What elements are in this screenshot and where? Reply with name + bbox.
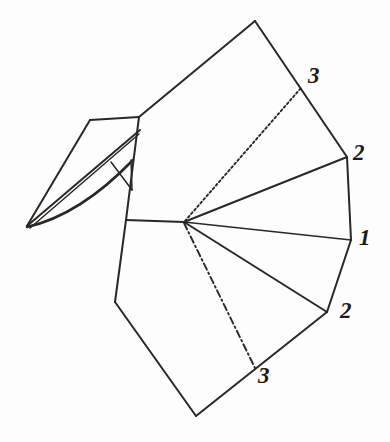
crease-label-2-lower: 2 <box>340 299 352 322</box>
crease-label-3-upper: 3 <box>308 64 320 87</box>
fold-beak-brace-lower <box>131 160 132 190</box>
origami-figure: 3 2 1 2 3 <box>0 0 390 442</box>
fold-beak-inner <box>30 134 139 228</box>
fold-beak-brace <box>111 162 132 190</box>
edge-right-2-to-1 <box>347 157 351 240</box>
edge-head-left <box>27 120 90 226</box>
edge-head-top <box>90 117 139 120</box>
crease-rib-2-upper <box>184 157 347 222</box>
edge-left-lower <box>115 220 126 302</box>
crease-label-1: 1 <box>359 226 371 249</box>
crease-label-2-upper: 2 <box>353 141 365 164</box>
crease-line-3-upper <box>185 88 301 221</box>
crease-label-3-lower: 3 <box>258 364 270 387</box>
edge-top-panel-left <box>139 21 255 117</box>
origami-diagram-svg <box>0 0 390 442</box>
edge-bottom-left <box>115 302 196 416</box>
edge-apex-to-neck <box>126 220 184 222</box>
